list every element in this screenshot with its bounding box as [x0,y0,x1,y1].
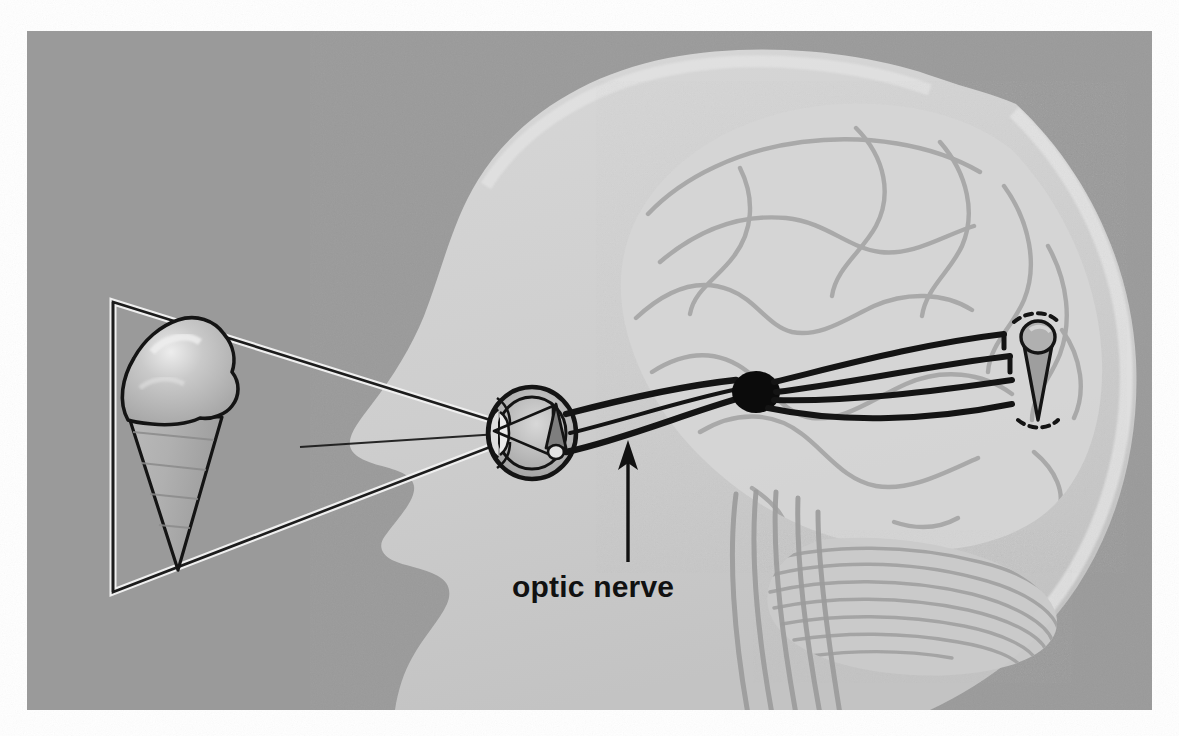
retinal-scoop-inverted [548,445,564,459]
eyeball [488,387,576,479]
vision-pathway-diagram: optic nerve [0,0,1179,736]
figure-root: optic nerve [0,0,1179,736]
optic-nerve-label: optic nerve [512,570,674,603]
